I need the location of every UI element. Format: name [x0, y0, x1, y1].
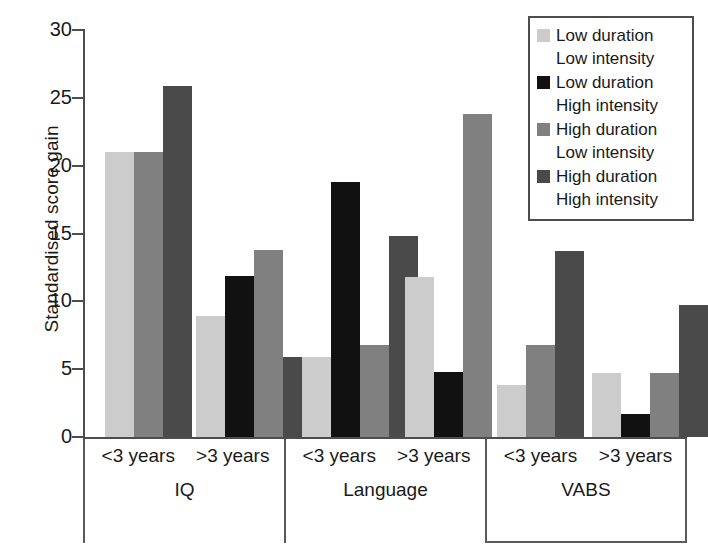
x-axis-group-vabs: <3 years>3 yearsVABS — [485, 439, 687, 543]
legend-swatch-low-duration-low-intensity — [537, 29, 550, 42]
legend-label-line1: Low duration — [556, 24, 653, 47]
bar — [555, 251, 584, 437]
legend-swatch-high-duration-low-intensity — [537, 123, 550, 136]
y-axis-tick-15 — [72, 233, 83, 235]
y-axis-tick-label: 0 — [10, 426, 72, 446]
y-axis-tick-20 — [72, 165, 83, 167]
bar — [302, 357, 331, 437]
x-axis-group-label: Language — [286, 479, 485, 501]
x-axis-label-band: <3 years>3 yearsIQ<3 years>3 yearsLangua… — [83, 439, 687, 543]
bar — [679, 305, 708, 437]
legend-label-line2: Low intensity — [537, 47, 686, 70]
bar — [225, 276, 254, 437]
y-axis-tick-30 — [72, 29, 83, 31]
bar — [592, 373, 621, 437]
x-axis-sublabel: >3 years — [188, 445, 279, 467]
x-axis-sublabel: <3 years — [495, 445, 586, 467]
y-axis-tick-5 — [72, 368, 83, 370]
legend-swatch-high-duration-high-intensity — [537, 170, 550, 183]
bar — [134, 152, 163, 437]
bar — [105, 152, 134, 437]
y-axis-tick-label: 5 — [10, 358, 72, 378]
y-axis-tick-label: 30 — [10, 19, 72, 39]
y-axis-tick-label: 10 — [10, 290, 72, 310]
x-axis-sublabel: <3 years — [294, 445, 385, 467]
bar — [650, 373, 679, 437]
bar — [463, 114, 492, 437]
legend-entry: Low durationLow intensity — [537, 24, 686, 70]
x-axis-sublabel: >3 years — [590, 445, 681, 467]
y-axis-tick-10 — [72, 300, 83, 302]
legend-label-line2: Low intensity — [537, 141, 686, 164]
bar — [163, 86, 192, 437]
bar — [434, 372, 463, 437]
x-axis-group-iq: <3 years>3 yearsIQ — [83, 439, 284, 543]
legend-entry: High durationLow intensity — [537, 118, 686, 164]
legend-label-line2: High intensity — [537, 94, 686, 117]
y-axis-tick-label: 25 — [10, 87, 72, 107]
legend-entry: High durationHigh intensity — [537, 165, 686, 211]
legend-label-line1: Low duration — [556, 71, 653, 94]
y-axis-tick-label: 15 — [10, 223, 72, 243]
bar — [621, 414, 650, 437]
bar — [196, 316, 225, 437]
y-axis-tick-25 — [72, 97, 83, 99]
bar — [331, 182, 360, 437]
x-axis-group-label: VABS — [487, 479, 685, 501]
legend-label-line2: High intensity — [537, 188, 686, 211]
x-axis-group-label: IQ — [85, 479, 284, 501]
y-axis-tick-0 — [72, 436, 83, 438]
bar — [526, 345, 555, 437]
legend-entry: Low durationHigh intensity — [537, 71, 686, 117]
y-axis-tick-label: 20 — [10, 155, 72, 175]
legend-label-line1: High duration — [556, 118, 657, 141]
x-axis-sublabel: >3 years — [389, 445, 480, 467]
chart-legend: Low durationLow intensityLow durationHig… — [528, 16, 694, 221]
bar — [254, 250, 283, 437]
bar — [405, 277, 434, 437]
bar — [497, 385, 526, 437]
legend-swatch-low-duration-high-intensity — [537, 76, 550, 89]
legend-label-line1: High duration — [556, 165, 657, 188]
x-axis-sublabel: <3 years — [93, 445, 184, 467]
bar — [360, 345, 389, 437]
x-axis-group-language: <3 years>3 yearsLanguage — [284, 439, 485, 543]
